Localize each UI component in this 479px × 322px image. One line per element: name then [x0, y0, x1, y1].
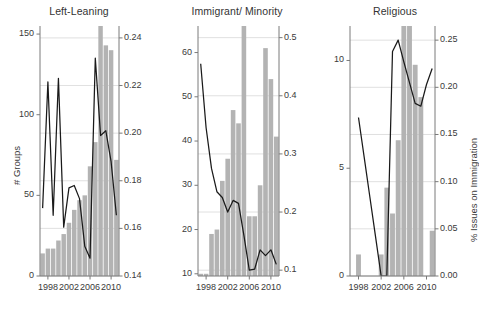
bar: [390, 214, 395, 277]
y-tick-label: 10: [158, 268, 192, 278]
plot-area: 05100.000.050.100.150.200.25199820022006…: [316, 0, 474, 322]
y2-tick-label: 0.5: [284, 32, 297, 42]
y-axis-title-left: # Groups: [11, 146, 22, 185]
bar: [98, 26, 102, 276]
bar: [418, 97, 423, 276]
y-tick-label: 20: [158, 224, 192, 234]
y-tick-label: 40: [158, 135, 192, 145]
y2-tick-label: 0.2: [284, 206, 297, 216]
y2-tick-label: 0.05: [440, 223, 458, 233]
y-tick-label: 0: [316, 270, 344, 280]
bar: [114, 160, 118, 276]
y-tick-label: 30: [158, 179, 192, 189]
bar: [72, 210, 76, 276]
y-tick-label: 150: [0, 28, 34, 38]
y2-tick-label: 0.20: [440, 81, 458, 91]
panel-religious: Religious 05100.000.050.100.150.200.2519…: [316, 0, 474, 322]
y2-tick-label: 0.00: [440, 270, 458, 280]
bar: [104, 45, 108, 276]
bar: [274, 137, 279, 276]
bar: [236, 123, 241, 276]
plot-area: 0501001500.140.160.180.200.220.241998200…: [0, 0, 158, 322]
bar: [258, 185, 263, 276]
x-tick-label: 2010: [95, 282, 127, 292]
y2-tick-label: 0.4: [284, 90, 297, 100]
y-axis-title-right: % Issues on Immigration: [468, 138, 479, 242]
bar: [209, 234, 214, 276]
y2-tick-label: 0.1: [284, 264, 297, 274]
y2-tick-label: 0.24: [124, 32, 142, 42]
y-tick-label: 10: [316, 54, 344, 64]
bar: [263, 48, 268, 276]
y2-tick-label: 0.22: [124, 80, 142, 90]
y2-tick-label: 0.3: [284, 148, 297, 158]
panel-immigrant-minority: Immigrant/ Minority 1020304050600.10.20.…: [158, 0, 316, 322]
panel-left-leaning: Left-Leaning 0501001500.140.160.180.200.…: [0, 0, 158, 322]
y2-tick-label: 0.18: [124, 175, 142, 185]
y-tick-label: 50: [158, 91, 192, 101]
plot-area: 1020304050600.10.20.30.40.51998200220062…: [158, 0, 316, 322]
bar: [61, 234, 65, 276]
bar: [51, 249, 55, 276]
y-tick-label: 0: [0, 270, 34, 280]
x-tick-label: 2010: [411, 282, 443, 292]
bar: [46, 249, 50, 276]
bar: [407, 26, 412, 276]
y-tick-label: 60: [158, 47, 192, 57]
y2-tick-label: 0.16: [124, 222, 142, 232]
y-tick-label: 50: [0, 189, 34, 199]
bar: [396, 140, 401, 276]
bar: [430, 231, 435, 276]
y2-tick-label: 0.10: [440, 176, 458, 186]
bar: [269, 79, 274, 276]
bar: [231, 110, 236, 276]
y-tick-label: 5: [316, 162, 344, 172]
bar: [56, 241, 60, 276]
x-tick-label: 2010: [255, 282, 287, 292]
y-tick-label: 100: [0, 109, 34, 119]
y2-tick-label: 0.25: [440, 34, 458, 44]
bar: [93, 142, 97, 276]
y2-tick-label: 0.14: [124, 270, 142, 280]
bar: [215, 230, 220, 276]
bar: [67, 223, 71, 276]
bar: [356, 254, 361, 276]
y2-tick-label: 0.15: [440, 128, 458, 138]
bar: [225, 159, 230, 276]
y2-tick-label: 0.20: [124, 127, 142, 137]
bar: [40, 253, 44, 276]
